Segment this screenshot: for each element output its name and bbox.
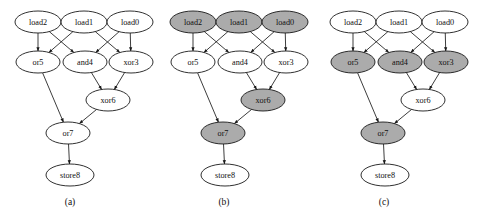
- node-shape-load0[interactable]: [262, 11, 308, 33]
- node-shape-store8[interactable]: [46, 164, 94, 186]
- panel-caption-a: (a): [65, 197, 76, 208]
- dataflow-graph-figure: load2load1load0or5and4xor3xor6or7store8(…: [0, 0, 481, 219]
- node-shape-or5[interactable]: [331, 51, 375, 73]
- node-load0[interactable]: load0: [422, 11, 468, 33]
- graph-panel-c: load2load1load0or5and4xor3xor6or7store8(…: [315, 0, 475, 219]
- edge-or7-to-store8: [384, 144, 385, 164]
- node-store8[interactable]: store8: [201, 164, 249, 186]
- node-load2[interactable]: load2: [330, 11, 376, 33]
- edge-xor3-to-xor6: [269, 73, 279, 90]
- node-and4[interactable]: and4: [378, 51, 422, 73]
- edge-xor3-to-xor6: [429, 73, 439, 90]
- edge-xor6-to-or7: [394, 109, 411, 123]
- node-shape-xor3[interactable]: [264, 51, 308, 73]
- node-shape-load0[interactable]: [422, 11, 468, 33]
- node-xor3[interactable]: xor3: [109, 51, 153, 73]
- node-load2[interactable]: load2: [170, 11, 216, 33]
- node-shape-or7[interactable]: [361, 122, 405, 144]
- node-xor6[interactable]: xor6: [241, 89, 285, 111]
- edge-xor3-to-xor6: [114, 73, 124, 90]
- node-shape-or7[interactable]: [201, 122, 245, 144]
- node-shape-load2[interactable]: [330, 11, 376, 33]
- node-load0[interactable]: load0: [107, 11, 153, 33]
- edge-and4-to-xor6: [246, 73, 256, 90]
- edge-and4-to-xor6: [406, 73, 416, 90]
- node-shape-load1[interactable]: [216, 11, 262, 33]
- node-or7[interactable]: or7: [201, 122, 245, 144]
- node-shape-load1[interactable]: [61, 11, 107, 33]
- node-store8[interactable]: store8: [361, 164, 409, 186]
- edge-or5-to-or7: [198, 73, 219, 122]
- node-and4[interactable]: and4: [63, 51, 107, 73]
- node-xor6[interactable]: xor6: [401, 89, 445, 111]
- node-shape-and4[interactable]: [63, 51, 107, 73]
- edge-and4-to-xor6: [91, 73, 101, 90]
- node-load1[interactable]: load1: [216, 11, 262, 33]
- node-and4[interactable]: and4: [218, 51, 262, 73]
- node-xor3[interactable]: xor3: [264, 51, 308, 73]
- edge-xor6-to-or7: [234, 109, 251, 123]
- node-shape-load0[interactable]: [107, 11, 153, 33]
- node-shape-xor3[interactable]: [424, 51, 468, 73]
- node-load1[interactable]: load1: [376, 11, 422, 33]
- node-shape-load2[interactable]: [170, 11, 216, 33]
- graph-panel-b: load2load1load0or5and4xor3xor6or7store8(…: [155, 0, 315, 219]
- node-load1[interactable]: load1: [61, 11, 107, 33]
- node-or5[interactable]: or5: [331, 51, 375, 73]
- edge-or7-to-store8: [69, 144, 70, 164]
- node-load0[interactable]: load0: [262, 11, 308, 33]
- node-xor6[interactable]: xor6: [86, 89, 130, 111]
- panel-caption-b: (b): [218, 197, 229, 208]
- panel-caption-c: (c): [379, 197, 390, 208]
- node-load2[interactable]: load2: [15, 11, 61, 33]
- node-shape-store8[interactable]: [361, 164, 409, 186]
- node-shape-xor6[interactable]: [86, 89, 130, 111]
- node-shape-load2[interactable]: [15, 11, 61, 33]
- node-or5[interactable]: or5: [171, 51, 215, 73]
- node-shape-xor6[interactable]: [241, 89, 285, 111]
- edge-or5-to-or7: [358, 73, 379, 122]
- node-xor3[interactable]: xor3: [424, 51, 468, 73]
- node-shape-xor3[interactable]: [109, 51, 153, 73]
- edge-xor6-to-or7: [79, 109, 96, 123]
- node-shape-or7[interactable]: [46, 122, 90, 144]
- node-or7[interactable]: or7: [46, 122, 90, 144]
- node-or5[interactable]: or5: [16, 51, 60, 73]
- node-or7[interactable]: or7: [361, 122, 405, 144]
- node-store8[interactable]: store8: [46, 164, 94, 186]
- node-shape-and4[interactable]: [218, 51, 262, 73]
- node-shape-or5[interactable]: [171, 51, 215, 73]
- node-shape-store8[interactable]: [201, 164, 249, 186]
- node-shape-load1[interactable]: [376, 11, 422, 33]
- edge-or7-to-store8: [224, 144, 225, 164]
- graph-panel-a: load2load1load0or5and4xor3xor6or7store8(…: [0, 0, 160, 219]
- node-shape-and4[interactable]: [378, 51, 422, 73]
- edge-or5-to-or7: [43, 73, 64, 122]
- node-shape-or5[interactable]: [16, 51, 60, 73]
- node-shape-xor6[interactable]: [401, 89, 445, 111]
